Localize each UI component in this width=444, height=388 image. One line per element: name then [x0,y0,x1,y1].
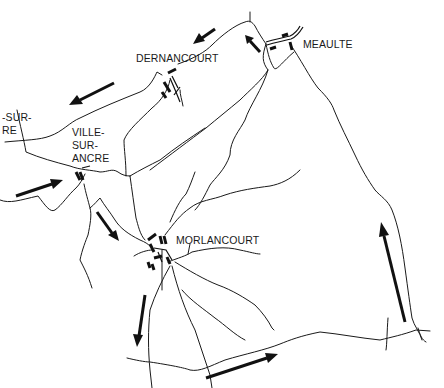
place-label-ville-sur-ancre: VILLE- SUR- ANCRE [72,126,109,165]
arrow-toward-dernancourt [193,29,215,44]
arrow-east-side-north [379,222,405,322]
arrow-into-meaulte [245,35,260,52]
place-label-buire-sur-ancre: -SUR- RE [2,111,32,137]
place-label-morlancourt: MORLANCOURT [176,234,259,247]
movement-arrows [0,0,444,388]
arrow-toward-morlancourt [97,212,119,241]
arrow-southeast-road [206,353,278,378]
place-label-dernancourt: DERNANCOURT [136,52,219,65]
arrow-south-of-morlancourt [133,295,145,347]
map-canvas: DERNANCOURT MEAULTE VILLE- SUR- ANCRE -S… [0,0,444,388]
arrow-west-of-dernancourt [69,83,114,105]
arrow-into-ville-sur-ancre [16,179,63,196]
place-label-meaulte: MEAULTE [303,38,353,51]
